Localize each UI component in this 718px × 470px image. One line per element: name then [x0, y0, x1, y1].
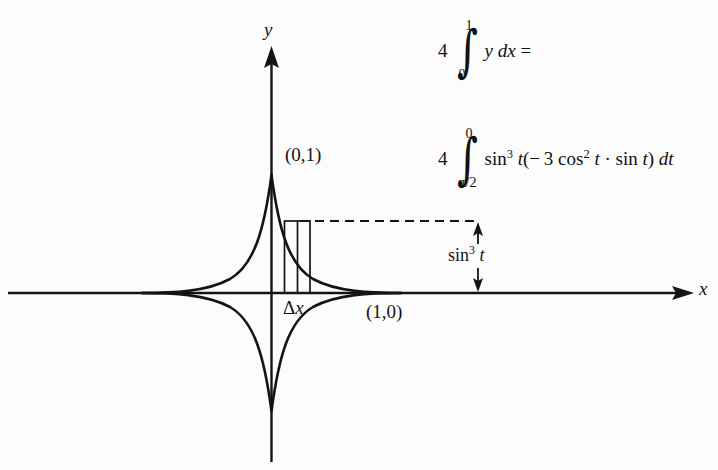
- integrand-first: y dx =: [485, 40, 532, 62]
- integral-upper-limit-second: 0: [466, 126, 473, 142]
- astroid-plot: [0, 0, 718, 470]
- equation-second: 4 ∫ 0 π/2 sin3 t(− 3 cos2 t · sin t) dt: [438, 128, 674, 190]
- height-label-sin-cubed-t: sin3 t: [448, 246, 484, 264]
- x-axis: [8, 286, 694, 300]
- integral-lower-limit-second: π/2: [459, 175, 477, 191]
- equation-second-coefficient: 4: [438, 148, 448, 170]
- equation-first-coefficient: 4: [438, 40, 448, 62]
- integrand-second: sin3 t(− 3 cos2 t · sin t) dt: [485, 148, 674, 170]
- integral-sign-second: ∫ 0 π/2: [451, 128, 477, 190]
- riemann-strip-rectangle: [285, 221, 311, 293]
- equation-first: 4 ∫ 1 0 y dx =: [438, 20, 531, 82]
- integral-sign-first: ∫ 1 0: [451, 20, 477, 82]
- y-axis: [264, 46, 279, 462]
- x-axis-label: x: [699, 279, 707, 298]
- astroid-figure: y x (0,1) (1,0) Δx sin3 t 4 ∫ 1 0 y dx =…: [0, 0, 718, 470]
- delta-x-label: Δx: [283, 298, 304, 317]
- y-axis-label: y: [264, 20, 272, 39]
- point-label-top: (0,1): [285, 145, 321, 164]
- integral-upper-limit-first: 1: [466, 18, 473, 34]
- point-label-right: (1,0): [366, 302, 402, 321]
- integral-lower-limit-first: 0: [459, 67, 466, 83]
